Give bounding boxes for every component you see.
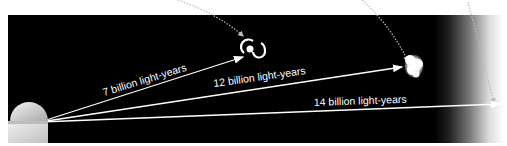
label-12-billion: 12 billion light-years bbox=[213, 64, 307, 89]
spiral-galaxy-icon bbox=[241, 39, 265, 57]
label-14-billion: 14 billion light-years bbox=[314, 93, 407, 108]
dotted-pointer-galaxy bbox=[178, 0, 243, 36]
arrow-14-billion bbox=[40, 104, 500, 122]
observatory-icon bbox=[8, 102, 48, 143]
young-galaxy-icon bbox=[404, 54, 424, 78]
arrow-7-billion bbox=[40, 57, 243, 122]
distance-diagram: 7 billion light-years 12 billion light-y… bbox=[0, 0, 507, 146]
dotted-pointer-blob bbox=[362, 0, 408, 61]
dotted-pointer-edge bbox=[468, 2, 494, 103]
